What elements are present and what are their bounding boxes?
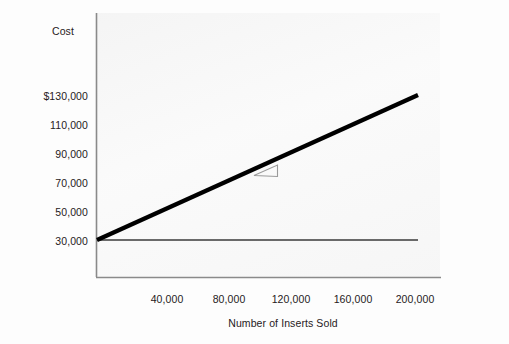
y-tick-label-110000: 110,000	[20, 120, 88, 131]
x-tick-label-40000: 40,000	[151, 294, 184, 305]
y-tick-label-70000: 70,000	[20, 178, 88, 189]
series-total-cost-line	[97, 95, 418, 240]
chart-figure: Cost $130,000 110,000 90,000 70,000 50,0…	[0, 0, 509, 344]
x-tick-label-160000: 160,000	[334, 294, 373, 305]
x-tick-label-120000: 120,000	[272, 294, 311, 305]
x-axis-title: Number of Inserts Sold	[228, 318, 338, 329]
y-tick-label-130000: $130,000	[20, 91, 88, 102]
y-tick-label-90000: 90,000	[20, 149, 88, 160]
y-tick-label-30000: 30,000	[20, 236, 88, 247]
x-tick-label-200000: 200,000	[396, 294, 435, 305]
y-axis-title: Cost	[52, 26, 74, 37]
x-tick-label-80000: 80,000	[213, 294, 246, 305]
y-tick-label-50000: 50,000	[20, 207, 88, 218]
